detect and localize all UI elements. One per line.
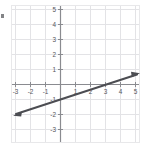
y-tick-label--2: -2 [50,111,56,118]
x-tick-label-3: 3 [104,88,108,95]
x-tick-labels: -3 -2 -1 1 2 3 4 5 [13,88,138,95]
x-tick-label--3: -3 [13,88,19,95]
y-tick-label-4: 4 [52,21,56,28]
y-tick-label-2: 2 [52,51,56,58]
y-tick-label--3: -3 [50,126,56,133]
coordinate-graph-figure: -3 -2 -1 1 2 3 4 5 5 4 3 2 1 -1 -2 -3 [0,0,146,148]
x-tick-label--1: -1 [43,88,49,95]
y-tick-label-1: 1 [52,66,56,73]
x-tick-label-4: 4 [119,88,123,95]
y-tick-label-3: 3 [52,36,56,43]
plot-area: -3 -2 -1 1 2 3 4 5 5 4 3 2 1 -1 -2 -3 [0,0,146,148]
x-tick-label-5: 5 [134,88,138,95]
x-tick-label--2: -2 [28,88,34,95]
y-tick-label-5: 5 [52,6,56,13]
